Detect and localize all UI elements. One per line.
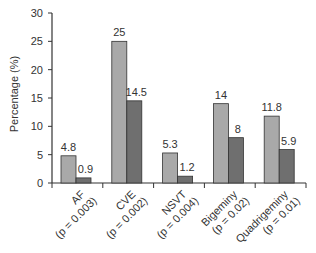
data-label: 0.9 — [78, 163, 93, 175]
data-label: 14.5 — [126, 86, 147, 98]
x-tick-label: NSVT(p = 0.004) — [145, 185, 201, 241]
bar — [213, 104, 228, 183]
data-label: 1.2 — [179, 161, 194, 173]
bar — [61, 156, 76, 183]
bar — [228, 138, 243, 183]
y-tick-label: 30 — [31, 7, 43, 19]
data-label: 4.8 — [61, 141, 76, 153]
y-tick-label: 10 — [31, 120, 43, 132]
bar — [76, 178, 91, 183]
y-tick-label: 25 — [31, 35, 43, 47]
data-label: 11.8 — [261, 101, 282, 113]
data-label: 5.9 — [281, 135, 296, 147]
x-tick-label: CVE(p = 0.002) — [94, 185, 150, 241]
y-tick-label: 15 — [31, 92, 43, 104]
bar-chart: 0510152025304.80.9AF(p = 0.003)2514.5CVE… — [0, 0, 316, 253]
x-tick-label: AF(p = 0.003) — [43, 185, 99, 241]
bar — [163, 153, 178, 183]
data-label: 25 — [113, 26, 125, 38]
bar — [127, 101, 142, 183]
data-label: 5.3 — [162, 138, 177, 150]
y-tick-label: 20 — [31, 64, 43, 76]
bar — [279, 150, 294, 183]
bar — [264, 116, 279, 183]
data-label: 8 — [235, 123, 241, 135]
bar — [112, 41, 127, 183]
y-tick-label: 5 — [37, 149, 43, 161]
data-label: 14 — [215, 89, 227, 101]
bar — [178, 176, 193, 183]
y-tick-label: 0 — [37, 177, 43, 189]
